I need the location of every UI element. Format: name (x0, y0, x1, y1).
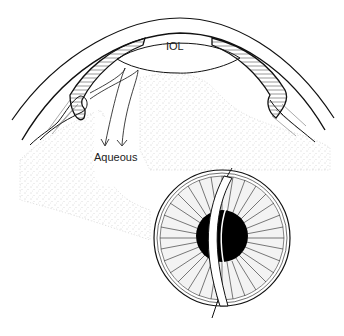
aqueous-label: Aqueous (94, 151, 137, 163)
iol-label: IOL (166, 40, 184, 52)
diagram-canvas: IOL Aqueous (0, 0, 344, 336)
iris-front-view (154, 168, 290, 318)
